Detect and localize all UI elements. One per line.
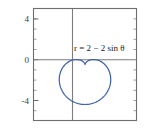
- polar-plot-canvas: 4 0 -4 r = 2 − 2 sin θ: [0, 0, 147, 131]
- cardioid-figure: 4 0 -4 r = 2 − 2 sin θ: [0, 0, 147, 131]
- y-tick-label-neg4: -4: [22, 96, 30, 106]
- y-tick-label-0: 0: [25, 55, 30, 65]
- equation-annotation: r = 2 − 2 sin θ: [74, 43, 124, 53]
- y-tick-label-4: 4: [25, 14, 30, 24]
